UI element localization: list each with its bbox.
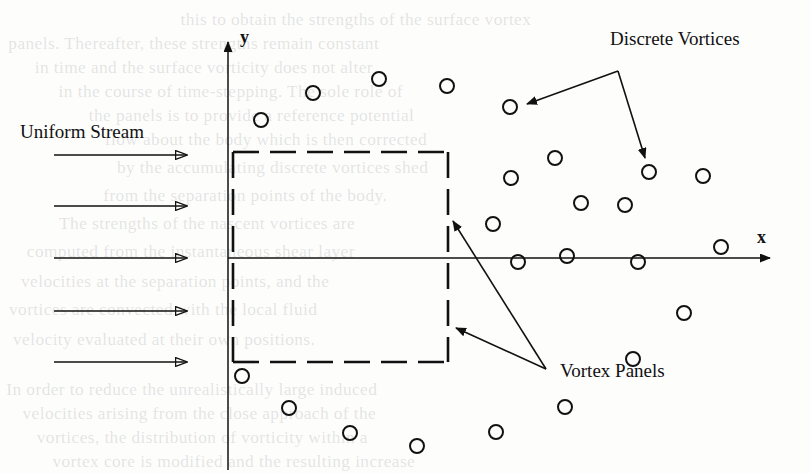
discrete-vortex-marker-2: [306, 86, 320, 100]
discrete-vortex-marker-8: [642, 165, 656, 179]
discrete-vortex-marker-4: [440, 79, 454, 93]
discrete-vortices-leader-1: [527, 71, 618, 104]
vortex-panels-leader-1: [453, 221, 546, 369]
discrete-vortex-marker-15: [631, 255, 645, 269]
y-axis-label: y: [240, 27, 249, 48]
discrete-vortex-marker-22: [410, 439, 424, 453]
discrete-vortex-marker-3: [372, 72, 386, 86]
discrete-vortex-marker-7: [548, 151, 562, 165]
discrete-vortex-marker-6: [504, 171, 518, 185]
discrete-vortex-marker-12: [486, 217, 500, 231]
discrete-vortex-marker-9: [696, 169, 710, 183]
discrete-vortices-leader-2: [618, 71, 645, 158]
discrete-vortex-marker-19: [235, 369, 249, 383]
discrete-vortices-pointer-lines: [527, 71, 645, 158]
discrete-vortex-marker-17: [677, 306, 691, 320]
discrete-vortex-marker-21: [343, 426, 357, 440]
discrete-vortex-marker-20: [282, 401, 296, 415]
coordinate-axes: [228, 42, 770, 470]
discrete-vortices-label: Discrete Vortices: [610, 28, 740, 50]
square-body-outline: [233, 152, 448, 362]
uniform-stream-arrow-group: [54, 155, 187, 362]
discrete-vortex-marker-23: [489, 425, 503, 439]
discrete-vortex-marker-5: [503, 100, 517, 114]
vortex-panels-pointer-lines: [453, 221, 546, 369]
diagram-canvas: [0, 0, 811, 473]
discrete-vortex-marker-11: [618, 198, 632, 212]
x-axis-label: x: [757, 227, 766, 248]
uniform-stream-label: Uniform Stream: [20, 121, 144, 143]
vortex-panel-figure: this to obtain the strengths of the surf…: [0, 0, 811, 473]
discrete-vortex-marker-10: [574, 196, 588, 210]
discrete-vortex-marker-16: [714, 240, 728, 254]
discrete-vortex-marker-1: [254, 113, 268, 127]
discrete-vortex-marker-24: [558, 400, 572, 414]
vortex-panels-label: Vortex Panels: [560, 360, 665, 382]
discrete-vortex-marker-14: [560, 249, 574, 263]
discrete-vortex-markers: [235, 72, 728, 453]
discrete-vortex-marker-13: [511, 255, 525, 269]
